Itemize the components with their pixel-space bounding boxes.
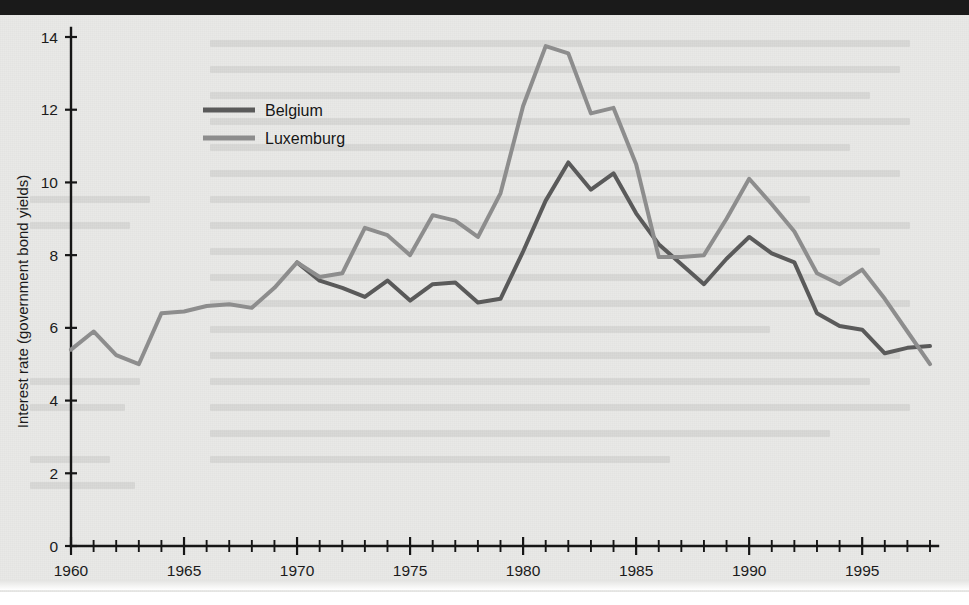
legend-label-luxemburg: Luxemburg [265, 130, 345, 147]
y-tick-label: 2 [49, 465, 58, 482]
chart-page: 02468101214 1960196519701975198019851990… [0, 0, 969, 605]
x-tick-label: 1975 [393, 562, 427, 579]
chart-canvas: 02468101214 1960196519701975198019851990… [0, 14, 969, 592]
y-tick-label: 14 [41, 29, 59, 46]
y-axis-title-text: Interest rate (government bond yields) [14, 175, 31, 428]
x-axis-tick-labels: 19601965197019751980198519901995 [54, 562, 880, 579]
y-tick-label: 6 [49, 319, 58, 336]
y-tick-label: 12 [41, 101, 58, 118]
scan-edge-bar [0, 0, 969, 15]
series-line-luxemburg [71, 46, 930, 364]
data-series [71, 46, 930, 364]
series-line-belgium [297, 162, 930, 353]
x-tick-label: 1970 [280, 562, 315, 579]
x-tick-label: 1980 [506, 562, 541, 579]
axis-ticks [65, 37, 930, 555]
y-tick-label: 4 [49, 392, 58, 409]
x-tick-label: 1985 [619, 562, 653, 579]
line-chart: 02468101214 1960196519701975198019851990… [0, 14, 969, 592]
x-tick-label: 1990 [732, 562, 767, 579]
y-tick-label: 0 [49, 538, 58, 555]
y-tick-label: 10 [41, 174, 59, 191]
x-tick-label: 1995 [845, 562, 879, 579]
y-tick-label: 8 [49, 247, 58, 264]
x-tick-label: 1965 [167, 562, 201, 579]
x-tick-label: 1960 [54, 562, 89, 579]
legend-label-belgium: Belgium [265, 102, 323, 119]
y-axis-title: Interest rate (government bond yields) [14, 175, 31, 428]
chart-legend: BelgiumLuxemburg [203, 102, 345, 147]
y-axis-tick-labels: 02468101214 [41, 29, 59, 555]
